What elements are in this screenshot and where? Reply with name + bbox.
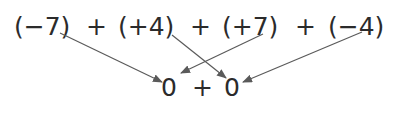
plus-sign-bottom: + <box>192 73 213 102</box>
plus-sign-2: + <box>190 12 211 41</box>
term-pos7: (+7) <box>222 12 278 41</box>
term-pos4: (+4) <box>118 12 174 41</box>
cancellation-diagram: (−7) + (+4) + (+7) + (−4) 0 + 0 <box>0 0 395 127</box>
term-neg4: (−4) <box>328 12 384 41</box>
plus-sign-1: + <box>86 12 107 41</box>
arrow-pos4-to-zero2 <box>172 35 226 78</box>
zero-2: 0 <box>224 73 240 102</box>
term-neg7: (−7) <box>14 12 70 41</box>
top-expression: (−7) + (+4) + (+7) + (−4) <box>14 12 384 41</box>
bottom-expression: 0 + 0 <box>161 73 240 102</box>
plus-sign-3: + <box>295 12 316 41</box>
zero-1: 0 <box>161 73 177 102</box>
